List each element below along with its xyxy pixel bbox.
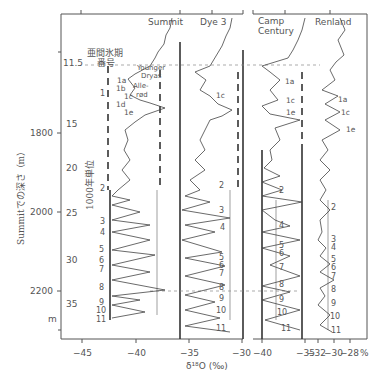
svg-text:10: 10 xyxy=(96,306,106,315)
svg-text:1e: 1e xyxy=(124,108,134,117)
interstadial-header-line1: 亜間氷期 xyxy=(87,47,123,58)
younger-dryas-label-2: Dryas xyxy=(141,72,162,80)
svg-text:15: 15 xyxy=(66,119,77,129)
svg-text:25: 25 xyxy=(66,208,77,218)
x-axis-label: δ¹⁸O (‰) xyxy=(186,361,228,371)
svg-text:8: 8 xyxy=(279,280,284,289)
depth-unit: m xyxy=(48,314,57,324)
svg-text:2: 2 xyxy=(100,184,105,193)
svg-text:4: 4 xyxy=(331,243,336,252)
svg-text:30: 30 xyxy=(66,255,78,265)
svg-text:4: 4 xyxy=(279,221,284,230)
svg-text:7: 7 xyxy=(99,265,104,274)
svg-text:11: 11 xyxy=(331,326,341,335)
svg-text:6: 6 xyxy=(279,249,284,258)
svg-text:1a: 1a xyxy=(338,95,347,104)
svg-text:1800: 1800 xyxy=(30,128,53,138)
svg-text:−40: −40 xyxy=(253,348,272,358)
younger-dryas-label-1: Younger xyxy=(136,64,165,72)
svg-text:7: 7 xyxy=(219,269,224,278)
svg-text:−28: −28 xyxy=(340,348,359,358)
svg-text:9: 9 xyxy=(279,295,284,304)
panel-title-dye3: Dye 3 xyxy=(200,17,226,27)
svg-text:−35: −35 xyxy=(180,348,199,358)
panel-title-camp-line1: Camp xyxy=(258,16,285,26)
svg-text:10: 10 xyxy=(330,312,340,321)
svg-text:1c: 1c xyxy=(341,108,350,117)
svg-text:−30: −30 xyxy=(232,348,251,358)
svg-text:11.5: 11.5 xyxy=(63,58,83,68)
svg-text:2: 2 xyxy=(219,181,224,190)
svg-text:11: 11 xyxy=(96,315,106,324)
allerod-label-1: Alle- xyxy=(133,82,149,90)
renland-unit: % xyxy=(360,348,369,358)
y-axis-label: Summitでの深さ（m） xyxy=(16,147,26,245)
panel-title-camp-line2: Century xyxy=(258,26,294,36)
svg-text:2200: 2200 xyxy=(30,286,53,296)
svg-text:8: 8 xyxy=(99,283,104,292)
svg-text:11: 11 xyxy=(281,324,291,333)
svg-text:5: 5 xyxy=(99,245,104,254)
svg-text:1c: 1c xyxy=(286,96,295,105)
ice-core-figure: Summit Dye 3 Camp Century Renland 亜間氷期 番… xyxy=(0,0,376,374)
svg-text:−40: −40 xyxy=(127,348,146,358)
svg-text:3: 3 xyxy=(100,217,105,226)
svg-text:10: 10 xyxy=(277,308,287,317)
svg-text:2: 2 xyxy=(279,186,284,195)
svg-text:1e: 1e xyxy=(286,108,296,117)
svg-text:7: 7 xyxy=(331,272,336,281)
svg-text:8: 8 xyxy=(331,285,336,294)
svg-text:35: 35 xyxy=(66,299,77,309)
svg-text:8: 8 xyxy=(219,283,224,292)
svg-text:10: 10 xyxy=(216,306,226,315)
svg-text:9: 9 xyxy=(331,299,336,308)
panel-title-renland: Renland xyxy=(315,17,352,27)
svg-text:3: 3 xyxy=(219,206,224,215)
age-axis-label: 1000年単位 xyxy=(84,160,95,210)
svg-text:6: 6 xyxy=(99,256,104,265)
interstadial-header-line2: 番号 xyxy=(97,57,115,68)
svg-text:9: 9 xyxy=(219,294,224,303)
svg-text:4: 4 xyxy=(100,228,105,237)
panel-title-summit: Summit xyxy=(148,17,183,27)
svg-text:20: 20 xyxy=(66,163,78,173)
svg-text:6: 6 xyxy=(331,263,336,272)
svg-text:1a: 1a xyxy=(285,77,294,86)
svg-text:2: 2 xyxy=(331,203,336,212)
svg-text:2000: 2000 xyxy=(30,207,53,217)
svg-text:7: 7 xyxy=(279,263,284,272)
svg-text:−45: −45 xyxy=(73,348,92,358)
svg-text:1e: 1e xyxy=(346,125,356,134)
allerod-label-2: rød xyxy=(136,91,148,99)
svg-text:1: 1 xyxy=(100,89,105,98)
svg-text:11: 11 xyxy=(216,324,226,333)
svg-text:1c: 1c xyxy=(216,91,225,100)
svg-text:4: 4 xyxy=(220,223,225,232)
